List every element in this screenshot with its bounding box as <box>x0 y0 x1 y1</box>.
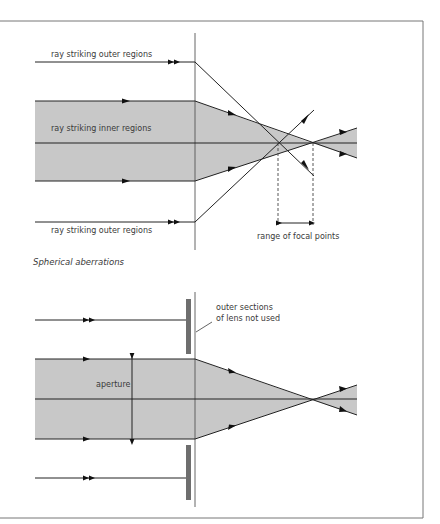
figure-frame <box>0 21 423 518</box>
double-arrow-icon <box>168 60 180 65</box>
double-arrow-icon <box>83 476 95 481</box>
label-outer-bottom: ray striking outer regions <box>51 226 152 235</box>
lens-stop-bottom <box>186 445 191 500</box>
double-arrow-icon <box>168 220 180 225</box>
stop-note-leader <box>196 322 212 332</box>
label-lens-not-used: of lens not used <box>216 314 280 323</box>
lens-stop-top <box>186 299 191 354</box>
arrow-icon <box>301 114 309 124</box>
spherical-aberration-figure: ray striking outer regions ray striking … <box>0 0 440 524</box>
label-outer-sections: outer sections <box>216 303 273 312</box>
figure-caption: Spherical aberrations <box>33 257 125 267</box>
label-aperture: aperture <box>96 380 131 389</box>
label-outer-top: ray striking outer regions <box>51 50 152 59</box>
double-arrow-icon <box>83 318 95 323</box>
label-inner: ray striking inner regions <box>51 124 151 133</box>
arrow-icon <box>228 167 236 173</box>
arrow-icon <box>228 110 236 116</box>
label-range-of-focal-points: range of focal points <box>257 232 339 241</box>
bottom-diagram <box>35 292 357 507</box>
top-diagram <box>35 33 357 250</box>
